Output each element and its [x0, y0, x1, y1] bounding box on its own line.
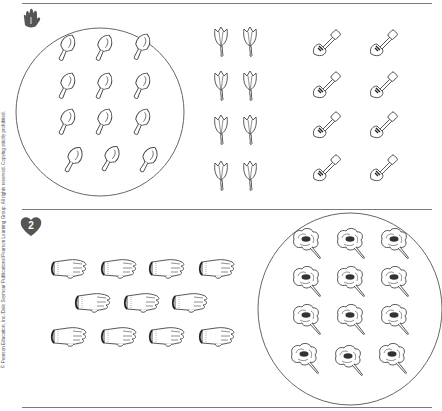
glove [200, 260, 234, 279]
flower [338, 304, 365, 334]
shovel [313, 111, 340, 137]
glove [125, 294, 159, 313]
tulip [215, 27, 228, 56]
flower [338, 228, 365, 258]
trowel-row-1 [54, 31, 153, 63]
glove [76, 294, 110, 313]
shovel [370, 154, 397, 180]
trowel-group [16, 28, 184, 196]
glove [52, 328, 86, 347]
trowel [98, 143, 123, 173]
tulip-group [215, 27, 257, 190]
glove [200, 328, 234, 347]
glove [150, 328, 184, 347]
shovel [313, 29, 340, 55]
heart-icon: 2 [21, 217, 42, 236]
flower-group [258, 213, 442, 405]
tulip [215, 115, 228, 144]
trowel-row-4 [61, 143, 161, 174]
shovel [313, 154, 340, 180]
trowel [54, 106, 78, 137]
worksheet-art: 2 [0, 0, 442, 411]
tulip [215, 161, 228, 190]
flower [336, 345, 363, 375]
flower [382, 228, 409, 258]
section-number: 2 [28, 220, 34, 231]
shovel [313, 71, 340, 97]
flower [382, 304, 409, 334]
flower [380, 343, 407, 373]
hand-icon [24, 9, 40, 28]
glove-row-3 [52, 328, 234, 347]
trowel [54, 32, 78, 63]
trowel [91, 70, 115, 101]
flower [294, 304, 321, 334]
flower [294, 228, 321, 258]
flower [294, 266, 321, 296]
trowel [91, 32, 115, 63]
trowel [129, 31, 153, 62]
flower [338, 266, 365, 296]
trowel [61, 144, 86, 174]
flower [292, 343, 319, 373]
shovel [370, 29, 397, 55]
trowel [129, 106, 153, 137]
glove-row-1 [52, 260, 234, 279]
tulip [244, 27, 257, 56]
trowel [129, 70, 153, 101]
glove [52, 260, 86, 279]
glove [102, 260, 136, 279]
tulip [244, 71, 257, 100]
trowel [91, 106, 115, 137]
glove [150, 260, 184, 279]
glove [102, 328, 136, 347]
shovel-group [313, 29, 397, 180]
trowel [54, 70, 78, 101]
tulip [244, 161, 257, 190]
shovel [370, 71, 397, 97]
trowel-row-2 [54, 70, 153, 101]
tulip [215, 71, 228, 100]
shovel [370, 111, 397, 137]
trowel [136, 144, 161, 174]
flower [382, 266, 409, 296]
glove-group [52, 260, 234, 347]
glove-row-2 [76, 294, 207, 313]
trowel-row-3 [54, 106, 153, 137]
glove [173, 294, 207, 313]
tulip [244, 115, 257, 144]
